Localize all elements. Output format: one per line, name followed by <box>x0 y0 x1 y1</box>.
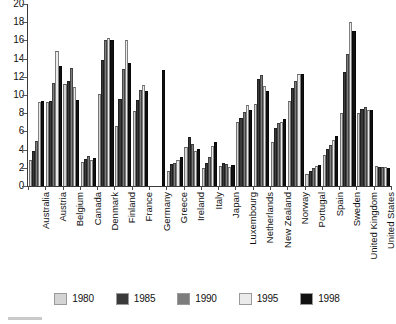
x-axis-category-label: Portugal <box>317 192 327 227</box>
y-axis-tick-mark <box>22 131 27 132</box>
x-axis-category-label: Ireland <box>196 192 206 221</box>
y-axis-tick-mark <box>22 77 27 78</box>
y-axis-tick-label: 16 <box>2 35 24 45</box>
y-axis-tick-label: 2 <box>2 163 24 173</box>
x-axis-category-label: Spain <box>335 192 345 216</box>
legend-label: 1980 <box>72 294 93 304</box>
bar-group <box>202 4 218 186</box>
legend-color-swatch <box>177 293 190 305</box>
bar <box>266 91 269 186</box>
legend-label: 1990 <box>195 294 216 304</box>
bar <box>41 101 44 186</box>
x-axis-tick-mark <box>391 186 392 190</box>
x-axis-category-label: Belgium <box>75 192 85 226</box>
legend-color-swatch <box>54 293 67 305</box>
legend-item[interactable]: 1990 <box>177 293 216 305</box>
bar-group <box>150 4 166 186</box>
plot-area: 20181614121086420 <box>0 0 394 190</box>
y-axis-tick-mark <box>22 4 27 5</box>
x-axis-tick-mark <box>97 186 98 190</box>
x-axis-category-label: United Kingdom <box>369 192 379 260</box>
y-axis-tick-mark <box>22 168 27 169</box>
x-axis-category-label: Canada <box>93 192 103 225</box>
x-axis-tick-mark <box>218 186 219 190</box>
x-axis-category-label: Australia <box>41 192 51 229</box>
legend-item[interactable]: 1998 <box>300 293 339 305</box>
x-axis-tick-mark <box>132 186 133 190</box>
bar-group <box>133 4 149 186</box>
y-axis-tick-label: 10 <box>2 90 24 100</box>
y-axis-tick-label: 12 <box>2 72 24 82</box>
bar <box>283 119 286 186</box>
legend-item[interactable]: 1985 <box>116 293 155 305</box>
bar <box>128 63 131 186</box>
bar-group <box>236 4 252 186</box>
legend-color-swatch <box>116 293 129 305</box>
x-axis-tick-mark <box>166 186 167 190</box>
bar <box>301 74 304 186</box>
x-axis-tick-mark <box>80 186 81 190</box>
bar <box>370 110 373 186</box>
x-axis-tick-mark <box>201 186 202 190</box>
chart-legend: 19801985199019951998 <box>0 288 394 310</box>
y-axis-tick-label: 6 <box>2 126 24 136</box>
bar <box>110 40 113 187</box>
y-axis-tick-label: 14 <box>2 54 24 64</box>
x-axis-tick-mark <box>339 186 340 190</box>
x-axis-category-label: Sweden <box>352 192 362 226</box>
x-axis-category-label: United States <box>386 192 396 249</box>
y-axis-tick-label: 8 <box>2 108 24 118</box>
x-axis-tick-mark <box>114 186 115 190</box>
y-axis-tick-mark <box>22 95 27 96</box>
x-axis-tick-mark <box>253 186 254 190</box>
bar-group <box>63 4 79 186</box>
bar <box>93 158 96 186</box>
x-axis-tick-mark <box>28 186 29 190</box>
bar-group <box>340 4 356 186</box>
x-axis-category-labels: AustraliaAustriaBelgiumCanadaDenmarkFinl… <box>28 192 391 278</box>
bar-group <box>167 4 183 186</box>
x-axis-category-label: Italy <box>214 192 224 209</box>
y-axis-tick-mark <box>22 40 27 41</box>
y-axis-tick-mark <box>22 150 27 151</box>
bar-group <box>305 4 321 186</box>
bar <box>180 157 183 186</box>
bar-group <box>184 4 200 186</box>
y-axis-tick-mark <box>22 59 27 60</box>
x-axis-category-label: Finland <box>127 192 137 223</box>
y-axis-tick-label: 18 <box>2 17 24 27</box>
x-axis-tick-mark <box>287 186 288 190</box>
bar-group <box>29 4 45 186</box>
x-axis-tick-mark <box>270 186 271 190</box>
legend-item[interactable]: 1980 <box>54 293 93 305</box>
x-axis-tick-mark <box>235 186 236 190</box>
legend-item[interactable]: 1995 <box>239 293 278 305</box>
bar <box>214 142 217 186</box>
y-axis-tick-mark <box>22 22 27 23</box>
bar <box>197 149 200 186</box>
bars-area <box>28 4 391 186</box>
y-axis-tick-label: 0 <box>2 181 24 191</box>
x-axis-category-label: Denmark <box>110 192 120 231</box>
bar <box>59 66 62 186</box>
y-axis-tick-label: 4 <box>2 145 24 155</box>
y-axis-tick-mark <box>22 186 27 187</box>
x-axis-tick-mark <box>45 186 46 190</box>
bar <box>318 165 321 186</box>
bar-group <box>115 4 131 186</box>
bar-group <box>81 4 97 186</box>
x-axis-tick-mark <box>374 186 375 190</box>
y-axis-tick-label: 20 <box>2 0 24 9</box>
bar <box>352 31 355 186</box>
x-axis-line <box>27 186 391 187</box>
x-axis-category-label: Greece <box>179 192 189 223</box>
x-axis-tick-mark <box>305 186 306 190</box>
x-axis-category-label: Netherlands <box>265 192 275 243</box>
y-axis-tick-mark <box>22 113 27 114</box>
x-axis-category-label: Norway <box>300 192 310 224</box>
bar <box>162 70 165 186</box>
bar-group <box>254 4 270 186</box>
x-axis-category-label: Japan <box>231 192 241 218</box>
bar <box>387 168 390 186</box>
